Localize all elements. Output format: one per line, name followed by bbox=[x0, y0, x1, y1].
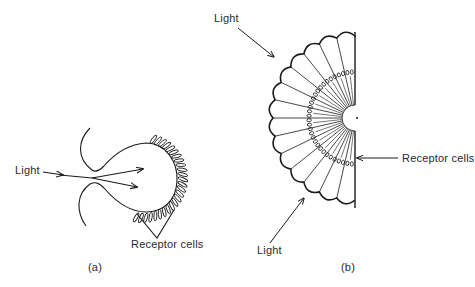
panel-b-compound-eye bbox=[238, 28, 398, 243]
receptor-cell bbox=[173, 193, 182, 203]
receptor-cell bbox=[154, 136, 163, 145]
receptor-cell bbox=[154, 211, 157, 221]
receptor-cell bbox=[311, 135, 316, 140]
eye-cup-outline bbox=[104, 143, 177, 212]
light-arrow-bottom bbox=[270, 198, 304, 243]
upper-lip-curve bbox=[81, 128, 105, 171]
receptor-cell bbox=[307, 119, 312, 122]
lower-lip-curve bbox=[79, 183, 104, 226]
receptor-cell bbox=[337, 72, 341, 77]
caption-a: (a) bbox=[88, 262, 102, 273]
light-arrow-top bbox=[238, 28, 274, 57]
fan-center-dot bbox=[356, 117, 358, 119]
receptor-cell bbox=[174, 158, 184, 162]
receptor-cell bbox=[346, 161, 350, 166]
receptor-cell bbox=[178, 172, 188, 177]
receptor-cell bbox=[325, 152, 330, 157]
receptor-cell bbox=[158, 139, 168, 148]
ommatidia-fan bbox=[269, 32, 355, 203]
receptor-cell bbox=[308, 105, 313, 109]
light-label-a: Light bbox=[15, 165, 40, 176]
light-label-b-bottom: Light bbox=[257, 245, 282, 256]
receptor-cell bbox=[177, 185, 187, 193]
receptor-cell bbox=[350, 70, 353, 75]
receptor-cell bbox=[311, 96, 316, 101]
light-label-b-top: Light bbox=[214, 13, 239, 24]
receptor-cell bbox=[162, 142, 172, 150]
receptor-cell bbox=[313, 92, 318, 97]
receptor-cell bbox=[307, 109, 312, 113]
receptor-cell bbox=[308, 127, 313, 131]
ray-upper bbox=[92, 169, 143, 178]
receptor-cell bbox=[350, 162, 353, 167]
receptor-cell bbox=[165, 145, 175, 152]
receptor-cells-a bbox=[132, 134, 188, 223]
receptor-cell bbox=[307, 114, 312, 117]
receptor-cells-label-b: Receptor cells bbox=[402, 153, 475, 164]
receptor-cell bbox=[149, 134, 157, 144]
receptor-cell bbox=[307, 123, 312, 127]
receptor-cell bbox=[313, 139, 318, 144]
receptor-cell bbox=[309, 131, 314, 135]
receptor-cell bbox=[148, 212, 153, 222]
receptor-cells-label-a: Receptor cells bbox=[131, 239, 204, 250]
incoming-light-ray bbox=[43, 172, 63, 175]
receptor-bracket bbox=[137, 210, 174, 238]
receptor-cell bbox=[175, 189, 184, 198]
receptor-cell bbox=[337, 158, 341, 163]
receptor-cell bbox=[171, 197, 179, 207]
receptor-cell bbox=[168, 201, 175, 211]
ray-lower bbox=[92, 178, 137, 187]
receptor-cell bbox=[346, 70, 350, 75]
receptor-cell bbox=[309, 101, 314, 105]
receptor-cell bbox=[328, 76, 333, 81]
receptor-cell bbox=[158, 209, 162, 219]
receptor-cell bbox=[328, 154, 333, 159]
panel-a-pinhole-eye bbox=[43, 128, 188, 238]
receptor-cell bbox=[325, 79, 330, 84]
receptor-cell bbox=[176, 163, 186, 166]
caption-b: (b) bbox=[341, 262, 355, 273]
incoming-light-ray-tail bbox=[60, 175, 92, 178]
receptor-cell bbox=[177, 168, 187, 172]
